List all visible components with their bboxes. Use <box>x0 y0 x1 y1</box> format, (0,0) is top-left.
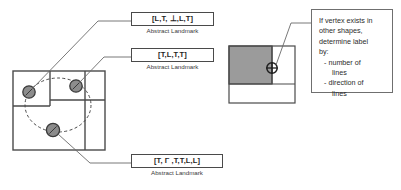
right-shape-group <box>229 46 295 103</box>
figure-canvas: [L,T, ⊥,L,T] Abstract Landmark [T,L,T,T]… <box>0 0 401 190</box>
left-shape-group <box>13 71 105 150</box>
leader-to-label-top <box>32 21 131 89</box>
abstract-landmark-box-bottom: [T, Γ ,T,T,L,L] <box>131 154 223 168</box>
vertex-rule-note-box: If vertex exists in other shapes, determ… <box>311 9 393 93</box>
leader-to-label-bottom <box>58 134 131 163</box>
note-line-6: lines <box>319 68 385 78</box>
abstract-landmark-caption-bottom: Abstract Landmark <box>131 170 223 176</box>
abstract-landmark-box-top: [L,T, ⊥,L,T] <box>131 12 214 26</box>
note-line-7: - direction of <box>319 78 385 88</box>
vertex-lower-center <box>46 123 59 136</box>
leader-lines-right <box>276 23 311 65</box>
note-line-5: - number of <box>319 58 385 68</box>
abstract-landmark-code-bottom: [T, Γ ,T,T,L,L] <box>154 157 200 165</box>
note-line-1: If vertex exists in <box>319 16 385 26</box>
right-filled-square <box>229 46 272 84</box>
abstract-landmark-box-middle: [T,L,T,T] <box>131 48 214 62</box>
note-line-8: lines <box>319 89 385 99</box>
abstract-landmark-code-top: [L,T, ⊥,L,T] <box>152 15 193 23</box>
note-line-2: other shapes, <box>319 26 385 36</box>
abstract-landmark-code-middle: [T,L,T,T] <box>158 51 187 59</box>
left-outer-square <box>13 71 105 150</box>
abstract-landmark-caption-top: Abstract Landmark <box>131 28 214 34</box>
note-line-3: determine label <box>319 37 385 47</box>
leader-lines-left <box>32 21 131 163</box>
leader-to-note <box>276 23 311 65</box>
abstract-landmark-caption-middle: Abstract Landmark <box>131 64 214 70</box>
note-line-4: by: <box>319 47 385 57</box>
